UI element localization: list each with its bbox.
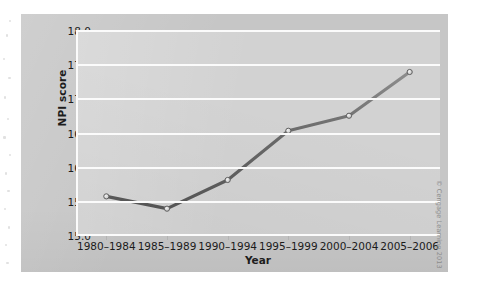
x-axis-title: Year bbox=[76, 254, 440, 266]
gridline bbox=[76, 167, 440, 169]
data-point-marker bbox=[407, 69, 412, 74]
scan-speck bbox=[8, 77, 11, 79]
data-point-marker bbox=[164, 206, 169, 211]
data-point-markers bbox=[104, 69, 413, 211]
page-scan-specks bbox=[0, 0, 21, 291]
scan-speck bbox=[5, 244, 7, 246]
copyright-notice: © Cengage Learning 2013 bbox=[435, 180, 443, 270]
data-point-marker bbox=[346, 113, 351, 118]
gridline bbox=[76, 30, 440, 32]
scan-speck bbox=[5, 172, 7, 175]
plot-area bbox=[76, 31, 440, 236]
scan-speck bbox=[6, 262, 9, 264]
figure-panel: NPI score 15.015.516.016.517.017.518.0 1… bbox=[21, 14, 448, 272]
gridline bbox=[76, 201, 440, 203]
data-point-marker bbox=[104, 194, 109, 199]
gridline bbox=[76, 98, 440, 100]
scan-speck bbox=[3, 136, 6, 139]
scan-speck bbox=[3, 58, 5, 60]
scan-speck bbox=[9, 154, 11, 156]
gridline bbox=[76, 133, 440, 135]
scan-speck bbox=[9, 20, 11, 22]
data-point-marker bbox=[225, 177, 230, 182]
gridline bbox=[76, 64, 440, 66]
scan-speck bbox=[4, 96, 6, 99]
scan-speck bbox=[7, 190, 10, 192]
scan-speck bbox=[7, 118, 9, 120]
scan-speck bbox=[6, 34, 8, 37]
data-series-line bbox=[106, 72, 409, 209]
scan-speck bbox=[4, 208, 6, 210]
scan-speck bbox=[8, 226, 10, 229]
